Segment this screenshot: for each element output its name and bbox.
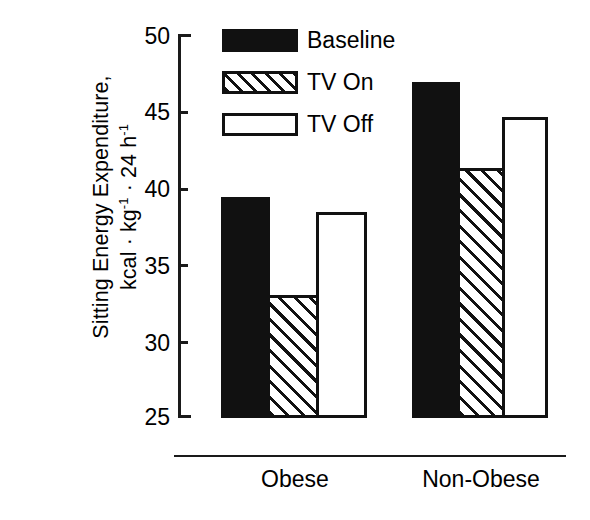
y-axis-title-sup2: -1 xyxy=(116,124,131,136)
legend-item-tv-on: TV On xyxy=(222,69,395,96)
y-tick-label-30: 30 xyxy=(144,329,170,356)
y-tick-25: 25 xyxy=(178,415,188,418)
bar-non-obese-tv-off xyxy=(502,117,548,418)
y-axis-title-line2-mid: · 24 h xyxy=(117,136,141,198)
bar-obese-tv-off xyxy=(316,212,367,418)
bar-obese-baseline xyxy=(221,197,270,418)
y-axis-title-line2: kcal · kg-1 · 24 h-1 xyxy=(116,124,144,290)
y-axis-spine xyxy=(178,34,181,418)
x-axis-label-non-obese: Non-Obese xyxy=(405,466,557,493)
y-tick-40: 40 xyxy=(178,188,188,191)
chart-legend: Baseline TV On TV Off xyxy=(222,27,395,138)
legend-label-baseline: Baseline xyxy=(307,27,395,54)
chart-figure: Sitting Energy Expenditure, kcal · kg-1 … xyxy=(0,0,590,520)
y-tick-label-35: 35 xyxy=(144,252,170,279)
bar-obese-tv-on xyxy=(267,295,319,418)
y-tick-35: 35 xyxy=(178,264,188,267)
bar-non-obese-baseline xyxy=(412,82,460,418)
y-tick-label-25: 25 xyxy=(144,403,170,430)
x-axis-label-obese: Obese xyxy=(225,466,365,493)
bar-non-obese-tv-on xyxy=(457,168,505,418)
y-tick-45: 45 xyxy=(178,111,188,114)
legend-swatch-tv-off xyxy=(222,113,298,136)
y-tick-label-50: 50 xyxy=(144,22,170,49)
legend-label-tv-on: TV On xyxy=(307,69,373,96)
legend-item-baseline: Baseline xyxy=(222,27,395,54)
y-tick-label-40: 40 xyxy=(144,176,170,203)
legend-item-tv-off: TV Off xyxy=(222,111,395,138)
y-tick-30: 30 xyxy=(178,341,188,344)
legend-label-tv-off: TV Off xyxy=(307,111,373,138)
y-tick-label-45: 45 xyxy=(144,99,170,126)
y-axis-title-line1: Sitting Energy Expenditure, xyxy=(88,75,116,338)
x-axis-rule xyxy=(174,455,566,457)
y-axis-title-line2-prefix: kcal · kg xyxy=(117,209,141,290)
y-tick-50: 50 xyxy=(178,34,188,37)
legend-swatch-baseline xyxy=(222,29,298,52)
y-axis-title-sup1: -1 xyxy=(116,197,131,209)
legend-swatch-tv-on xyxy=(222,71,298,94)
